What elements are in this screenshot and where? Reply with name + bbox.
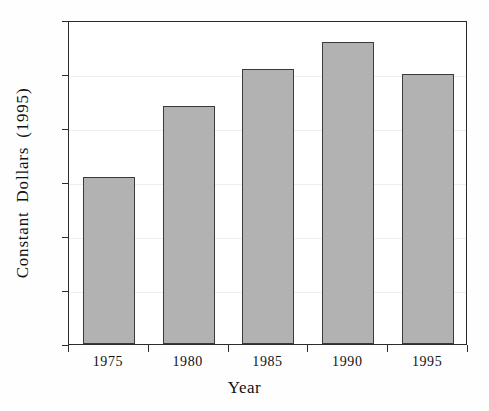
bar-slot (149, 22, 229, 344)
y-axis-tick-label-wrap: 5 (0, 75, 68, 76)
y-axis-tick-label-wrap: 2 (0, 237, 68, 238)
x-axis-tick (148, 345, 149, 352)
y-axis-tick-label-wrap: 6 (0, 21, 68, 22)
y-axis-tick-label-wrap: 3 (0, 183, 68, 184)
bar-slot (69, 22, 149, 344)
x-axis-tick-label: 1980 (172, 354, 202, 370)
bar-slot (388, 22, 468, 344)
bar[interactable] (242, 69, 294, 344)
y-axis-tick-label-wrap: 1 (0, 291, 68, 292)
x-axis-tick-label: 1990 (332, 354, 362, 370)
x-axis-tick (228, 345, 229, 352)
bar[interactable] (83, 177, 135, 344)
x-axis-tick-label: 1975 (93, 354, 123, 370)
x-axis-title-text: Year (228, 378, 261, 397)
bar-slot (229, 22, 309, 344)
bar[interactable] (322, 42, 374, 344)
bar[interactable] (163, 106, 215, 344)
bar-slot (308, 22, 388, 344)
y-axis-tick-label-wrap: 4 (0, 129, 68, 130)
bar[interactable] (402, 74, 454, 344)
plot-area (68, 21, 467, 345)
y-axis-tick-label-wrap: 0 (0, 345, 68, 346)
x-axis-tick (467, 345, 468, 352)
x-axis-tick-label: 1995 (412, 354, 442, 370)
chart-page: Constant Dollars (1995) 0123456 19751980… (0, 0, 489, 411)
x-axis-tick (387, 345, 388, 352)
x-axis-tick (307, 345, 308, 352)
bar-series (69, 22, 466, 344)
x-axis-tick-label: 1985 (252, 354, 282, 370)
x-axis-tick (68, 345, 69, 352)
x-axis-title: Year (0, 378, 489, 398)
